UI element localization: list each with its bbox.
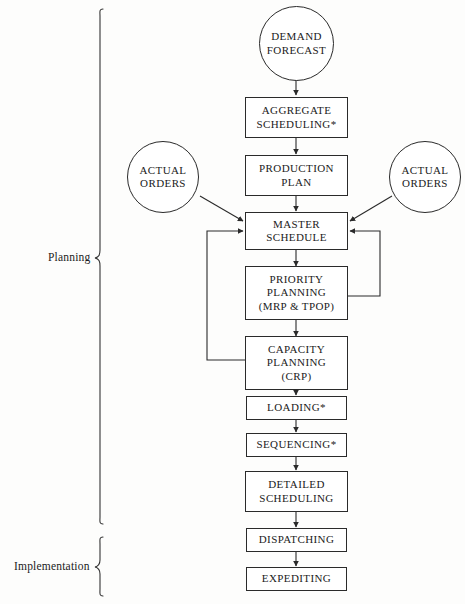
- node-dispatching-line-1: DISPATCHING: [259, 533, 335, 546]
- node-priority-planning-line-3: (MRP & TPOP): [259, 300, 335, 313]
- group-label-implementation: Implementation: [14, 560, 90, 572]
- node-actual-orders-right-line-1: ACTUAL: [401, 164, 448, 177]
- node-capacity-planning-line-1: CAPACITY: [268, 343, 325, 356]
- node-actual-orders-right[interactable]: ACTUAL ORDERS: [389, 141, 461, 213]
- node-actual-orders-left[interactable]: ACTUAL ORDERS: [127, 141, 199, 213]
- edge-priority-feedback-to-master: [347, 231, 380, 296]
- node-actual-orders-left-line-2: ORDERS: [140, 177, 186, 190]
- node-production-plan-line-2: PLAN: [281, 176, 311, 189]
- node-priority-planning-line-1: PRIORITY: [270, 273, 324, 286]
- node-aggregate-scheduling[interactable]: AGGREGATE SCHEDULING*: [245, 97, 348, 138]
- node-master-schedule-line-2: SCHEDULE: [266, 231, 327, 244]
- node-detailed-scheduling-line-2: SCHEDULING: [259, 492, 333, 505]
- node-demand-forecast-line-1: DEMAND: [271, 30, 322, 43]
- node-sequencing[interactable]: SEQUENCING*: [246, 433, 347, 457]
- node-demand-forecast-line-2: FORECAST: [267, 44, 326, 57]
- node-expediting-line-1: EXPEDITING: [262, 572, 331, 585]
- node-actual-orders-left-line-1: ACTUAL: [139, 164, 186, 177]
- connector-layer: [0, 0, 465, 604]
- node-sequencing-line-1: SEQUENCING*: [256, 438, 336, 451]
- node-master-schedule[interactable]: MASTER SCHEDULE: [245, 212, 348, 250]
- brace-planning: [95, 9, 103, 524]
- edge-actual-orders-left-to-master: [200, 196, 243, 221]
- node-loading-line-1: LOADING*: [267, 401, 326, 414]
- edge-actual-orders-right-to-master: [350, 196, 392, 221]
- node-priority-planning-line-2: PLANNING: [267, 286, 326, 299]
- node-capacity-planning[interactable]: CAPACITY PLANNING (CRP): [245, 336, 348, 390]
- node-demand-forecast[interactable]: DEMAND FORECAST: [259, 6, 334, 81]
- node-priority-planning[interactable]: PRIORITY PLANNING (MRP & TPOP): [245, 266, 348, 320]
- edge-capacity-feedback-to-master: [207, 231, 246, 360]
- node-aggregate-scheduling-line-1: AGGREGATE: [262, 104, 332, 117]
- node-capacity-planning-line-3: (CRP): [281, 370, 311, 383]
- group-label-planning: Planning: [48, 251, 91, 263]
- node-aggregate-scheduling-line-2: SCHEDULING*: [256, 118, 336, 131]
- node-master-schedule-line-1: MASTER: [273, 218, 320, 231]
- node-expediting[interactable]: EXPEDITING: [246, 567, 347, 591]
- node-dispatching[interactable]: DISPATCHING: [246, 528, 347, 552]
- node-detailed-scheduling-line-1: DETAILED: [268, 478, 325, 491]
- node-production-plan[interactable]: PRODUCTION PLAN: [245, 155, 348, 196]
- node-detailed-scheduling[interactable]: DETAILED SCHEDULING: [245, 471, 348, 512]
- node-capacity-planning-line-2: PLANNING: [267, 356, 326, 369]
- brace-implementation: [95, 537, 103, 596]
- node-production-plan-line-1: PRODUCTION: [259, 162, 334, 175]
- node-actual-orders-right-line-2: ORDERS: [402, 177, 448, 190]
- flowchart-canvas: Planning Implementation DEMAND FORECAST …: [0, 0, 465, 604]
- node-loading[interactable]: LOADING*: [246, 396, 347, 420]
